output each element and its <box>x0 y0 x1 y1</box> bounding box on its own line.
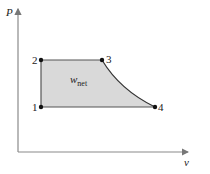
pv-diagram: P v 1 2 3 4 wnet <box>0 0 210 174</box>
state-label-3: 3 <box>106 53 112 65</box>
y-axis-label: P <box>5 6 13 18</box>
state-point-3 <box>100 58 104 62</box>
state-point-2 <box>39 58 43 62</box>
state-label-4: 4 <box>158 101 164 113</box>
net-work-area <box>41 60 155 107</box>
state-point-4 <box>153 105 157 109</box>
state-label-1: 1 <box>32 101 38 113</box>
x-axis-label: v <box>184 156 189 168</box>
state-label-2: 2 <box>32 54 38 66</box>
state-point-1 <box>39 105 43 109</box>
